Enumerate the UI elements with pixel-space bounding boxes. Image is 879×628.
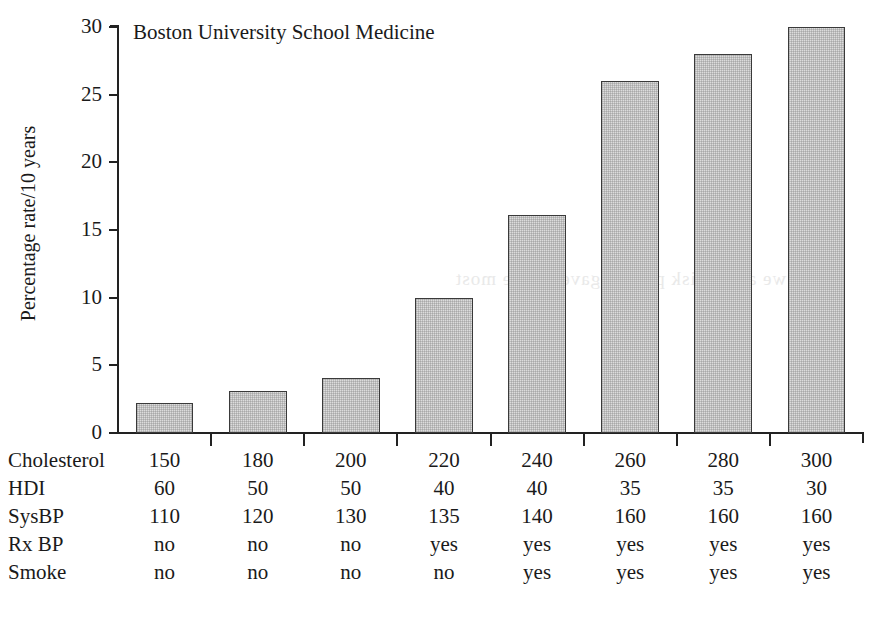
table-row-label: Rx BP <box>8 530 63 558</box>
table-cell: yes <box>491 530 584 558</box>
table-cell: 40 <box>397 474 490 502</box>
table-cell: 130 <box>304 502 397 530</box>
table-cell: no <box>304 558 397 586</box>
y-axis-tick-label: 10 <box>42 287 102 308</box>
table-cell: yes <box>584 558 677 586</box>
risk-factor-table: Cholesterol150180200220240260280300HDI60… <box>0 446 879 586</box>
table-cell: 50 <box>211 474 304 502</box>
bar <box>415 298 473 433</box>
table-cell: no <box>304 530 397 558</box>
table-cell: no <box>118 530 211 558</box>
x-axis-tick <box>490 434 492 446</box>
table-cell: 160 <box>584 502 677 530</box>
table-cell: 135 <box>397 502 490 530</box>
table-row-label: SysBP <box>8 502 64 530</box>
table-cell: no <box>211 558 304 586</box>
table-cell: yes <box>677 530 770 558</box>
x-axis-tick <box>303 434 305 446</box>
table-row: SysBP110120130135140160160160 <box>0 502 879 530</box>
table-cell: 300 <box>770 446 863 474</box>
table-cell: 50 <box>304 474 397 502</box>
table-cell: yes <box>491 558 584 586</box>
y-axis-label: Percentage rate/10 years <box>17 24 40 424</box>
bar <box>508 215 566 433</box>
table-row-label: Cholesterol <box>8 446 105 474</box>
table-row-label: Smoke <box>8 558 66 586</box>
table-cell: yes <box>770 530 863 558</box>
bar <box>229 391 287 433</box>
y-axis-tick-label: 0 <box>42 422 102 443</box>
table-cell: 110 <box>118 502 211 530</box>
table-cell: no <box>397 558 490 586</box>
y-axis-tick <box>109 94 118 96</box>
y-axis-tick-label: 20 <box>42 151 102 172</box>
table-cell: 220 <box>397 446 490 474</box>
table-row: Smokenonononoyesyesyesyes <box>0 558 879 586</box>
x-axis-tick <box>210 434 212 446</box>
table-cell: 160 <box>770 502 863 530</box>
y-axis-tick-label: 15 <box>42 219 102 240</box>
table-cell: 35 <box>584 474 677 502</box>
table-cell: 60 <box>118 474 211 502</box>
x-axis-tick <box>676 434 678 446</box>
y-axis-tick <box>109 432 118 434</box>
y-axis-tick <box>109 229 118 231</box>
bar <box>601 81 659 433</box>
table-cell: 150 <box>118 446 211 474</box>
y-axis-tick <box>109 26 118 28</box>
table-cell: yes <box>677 558 770 586</box>
table-cell: 240 <box>491 446 584 474</box>
plot-area <box>118 27 863 433</box>
x-axis-right-cap <box>862 432 864 443</box>
y-axis-tick-label: 5 <box>42 354 102 375</box>
table-cell: 280 <box>677 446 770 474</box>
table-cell: yes <box>770 558 863 586</box>
table-cell: 120 <box>211 502 304 530</box>
table-row: Cholesterol150180200220240260280300 <box>0 446 879 474</box>
table-cell: 260 <box>584 446 677 474</box>
table-cell: yes <box>584 530 677 558</box>
x-axis-tick <box>583 434 585 446</box>
x-axis-tick <box>396 434 398 446</box>
y-axis-tick-label: 30 <box>42 16 102 37</box>
bar <box>322 378 380 433</box>
table-cell: 160 <box>677 502 770 530</box>
table-row: Rx BPnononoyesyesyesyesyes <box>0 530 879 558</box>
table-cell: 140 <box>491 502 584 530</box>
y-axis-tick-label: 25 <box>42 84 102 105</box>
figure-root: we are at risk patient gave on the most … <box>0 0 879 628</box>
x-axis-tick <box>769 434 771 446</box>
table-cell: 35 <box>677 474 770 502</box>
y-axis-tick <box>109 364 118 366</box>
table-cell: no <box>211 530 304 558</box>
y-axis-tick <box>109 297 118 299</box>
table-cell: 30 <box>770 474 863 502</box>
table-cell: 180 <box>211 446 304 474</box>
table-cell: yes <box>397 530 490 558</box>
bar <box>694 54 752 433</box>
table-cell: 40 <box>491 474 584 502</box>
table-row-label: HDI <box>8 474 45 502</box>
table-row: HDI6050504040353530 <box>0 474 879 502</box>
bar <box>788 27 846 433</box>
bar <box>136 403 194 433</box>
table-cell: no <box>118 558 211 586</box>
y-axis-tick <box>109 161 118 163</box>
table-cell: 200 <box>304 446 397 474</box>
